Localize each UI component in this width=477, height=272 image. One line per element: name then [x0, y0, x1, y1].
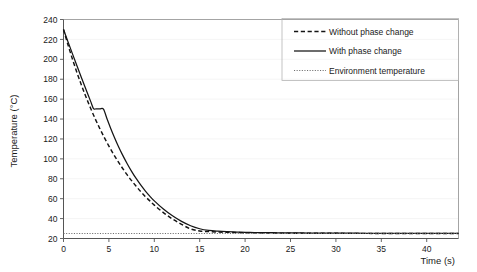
- x-axis-title: Time (s): [421, 255, 455, 266]
- x-tick-label: 40: [422, 244, 432, 254]
- legend-label: Environment temperature: [329, 66, 425, 76]
- legend-label: Without phase change: [329, 27, 414, 37]
- x-tick-label: 25: [286, 244, 296, 254]
- x-tick-label: 30: [331, 244, 341, 254]
- y-tick-label: 60: [48, 194, 58, 204]
- y-tick-label: 180: [43, 74, 57, 84]
- y-tick-label: 200: [43, 54, 57, 64]
- x-tick-label: 35: [377, 244, 387, 254]
- y-tick-label: 80: [48, 174, 58, 184]
- x-tick-label: 15: [195, 244, 205, 254]
- y-tick-label: 100: [43, 154, 57, 164]
- x-tick-label: 20: [240, 244, 250, 254]
- legend-label: With phase change: [329, 46, 402, 56]
- chart-background: [0, 0, 477, 272]
- x-tick-label: 5: [107, 244, 112, 254]
- y-tick-label: 240: [43, 15, 57, 25]
- y-tick-label: 40: [48, 214, 58, 224]
- y-tick-label: 160: [43, 94, 57, 104]
- y-axis-title: Temperature (°C): [8, 95, 19, 168]
- y-tick-label: 20: [48, 234, 58, 244]
- y-tick-label: 140: [43, 114, 57, 124]
- y-tick-label: 220: [43, 35, 57, 45]
- x-tick-label: 10: [150, 244, 160, 254]
- temperature-vs-time-chart: 20406080100120140160180200220240 0510152…: [0, 0, 477, 272]
- y-tick-label: 120: [43, 134, 57, 144]
- x-tick-label: 0: [61, 244, 66, 254]
